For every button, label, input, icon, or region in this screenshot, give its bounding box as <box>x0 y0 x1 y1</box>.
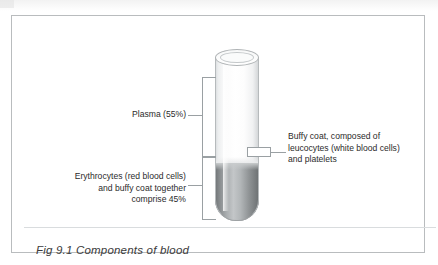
buffy-coat-band <box>215 163 259 170</box>
buffy-coat-callout-box <box>247 147 271 157</box>
figure-caption: Fig 9.1 Components of blood <box>36 244 189 256</box>
label-plasma: Plasma (55%) <box>52 109 186 121</box>
leader-line-buffy-coat <box>270 152 286 153</box>
leader-line-plasma <box>188 115 203 116</box>
figure-frame: Plasma (55%) Erythrocytes (red blood cel… <box>11 15 425 253</box>
label-buffy-coat: Buffy coat, composed of leucocytes (whit… <box>288 131 436 166</box>
erythrocyte-layer <box>215 163 259 221</box>
tube-rim-inner <box>220 52 254 63</box>
caption-divider <box>24 227 436 228</box>
scan-edge-shading <box>0 0 438 11</box>
test-tube-illustration <box>215 49 259 221</box>
bracket-plasma <box>202 77 216 157</box>
bracket-erythrocytes <box>202 157 216 220</box>
label-erythrocytes: Erythrocytes (red blood cells) and buffy… <box>34 171 186 206</box>
tube-body <box>215 57 259 221</box>
scan-corner-artifact <box>0 0 14 8</box>
leader-line-erythrocytes <box>188 185 203 186</box>
